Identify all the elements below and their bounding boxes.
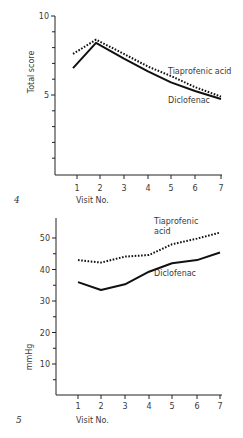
y-tick-label: 30: [40, 297, 50, 306]
x-tick-label: 7: [217, 402, 222, 411]
x-axis-title: Visit No.: [76, 416, 109, 425]
y-tick-label: 10: [39, 12, 49, 21]
series-line-tiaprofenic-acid: [78, 233, 220, 263]
chart-5: mmHg Visit No. 5 Tiaprofenic acid Diclof…: [16, 217, 198, 425]
y-axis-title: Total score: [27, 51, 36, 95]
x-tick-label: 6: [192, 184, 197, 193]
x-tick-label: 3: [121, 184, 126, 193]
x-tick-label: 5: [169, 402, 174, 411]
annotation-diclofenac: Diclofenac: [154, 269, 196, 278]
annotation-tiaprofenic: Tiaprofenic acid: [167, 67, 231, 76]
figure-canvas: Total score Visit No. 4 Tiaprofenic acid…: [0, 0, 243, 438]
y-tick-label: 40: [40, 266, 50, 275]
annotation-tiaprofenic: Tiaprofenic: [153, 217, 198, 226]
x-tick-label: 1: [75, 402, 80, 411]
y-tick-label: 20: [40, 329, 50, 338]
x-tick-label: 3: [122, 402, 127, 411]
y-tick-label: 50: [40, 234, 50, 243]
chart-4: Total score Visit No. 4 Tiaprofenic acid…: [13, 51, 231, 205]
annotation-tiaprofenic-line2: acid: [154, 227, 171, 236]
annotation-diclofenac: Diclofenac: [168, 96, 210, 105]
series-line-diclofenac: [78, 253, 220, 291]
x-tick-label: 4: [145, 184, 150, 193]
y-tick-label: 5: [44, 91, 49, 100]
x-tick-label: 1: [74, 184, 79, 193]
figure-label: 5: [16, 415, 22, 425]
figure-label: 4: [13, 195, 20, 205]
y-axis-title: mmHg: [25, 344, 34, 371]
x-tick-label: 2: [98, 402, 103, 411]
x-axis-title: Visit No.: [76, 196, 109, 205]
x-tick-label: 5: [168, 184, 173, 193]
x-tick-label: 2: [97, 184, 102, 193]
x-tick-label: 4: [146, 402, 151, 411]
y-tick-label: 10: [40, 360, 50, 369]
x-tick-label: 6: [194, 402, 199, 411]
x-tick-label: 7: [218, 184, 223, 193]
